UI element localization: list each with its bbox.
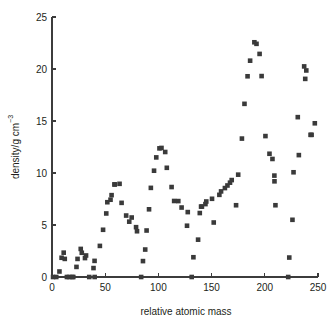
data-point — [295, 115, 300, 120]
x-tick-label: 150 — [203, 282, 220, 293]
y-axis-title-exponent: −3 — [6, 115, 13, 123]
data-point — [57, 269, 62, 274]
y-tick-label: 15 — [36, 116, 48, 127]
data-point — [229, 178, 234, 183]
data-point — [303, 77, 308, 82]
y-axis-title-text: density/g cm−3 — [6, 115, 21, 179]
y-axis-title-base: density/g cm — [10, 123, 21, 179]
data-point — [287, 255, 292, 260]
data-point — [272, 173, 277, 178]
data-point — [79, 250, 84, 255]
data-point — [189, 275, 194, 280]
data-point — [152, 168, 157, 173]
data-point — [139, 275, 144, 280]
data-point — [108, 197, 113, 202]
scatter-plot-svg: 0510152025 050100150200250 relative atom… — [0, 0, 334, 326]
data-point — [117, 182, 122, 187]
data-point — [84, 253, 89, 258]
x-tick-label: 0 — [49, 282, 55, 293]
x-tick-label: 250 — [310, 282, 327, 293]
data-point — [104, 211, 109, 216]
data-point — [304, 68, 309, 73]
data-point — [74, 265, 79, 270]
data-point — [129, 215, 134, 220]
data-point — [196, 237, 201, 242]
data-point — [75, 257, 80, 262]
data-point — [92, 259, 97, 264]
data-point — [71, 275, 76, 280]
density-vs-atomic-mass-chart: 0510152025 050100150200250 relative atom… — [0, 0, 334, 326]
data-point — [242, 102, 247, 107]
y-axis: 0510152025 — [36, 12, 56, 283]
data-point — [149, 186, 154, 191]
y-tick-label: 0 — [41, 272, 47, 283]
data-point — [154, 155, 159, 160]
data-point — [240, 136, 245, 141]
data-point — [172, 199, 177, 204]
y-tick-label: 20 — [36, 64, 48, 75]
data-point — [254, 42, 259, 47]
data-point — [141, 259, 146, 264]
data-point — [112, 182, 117, 187]
data-point — [54, 275, 59, 280]
x-axis-title: relative atomic mass — [140, 306, 231, 317]
data-point-group — [51, 40, 317, 279]
data-point — [267, 151, 272, 156]
data-point — [165, 166, 170, 171]
data-point — [286, 275, 291, 280]
data-point — [191, 255, 196, 260]
data-point — [176, 199, 181, 204]
data-point — [270, 157, 275, 162]
data-point — [185, 210, 190, 215]
x-tick-label: 200 — [256, 282, 273, 293]
y-tick-label: 10 — [36, 168, 48, 179]
data-point — [313, 121, 318, 126]
data-point — [62, 257, 67, 262]
data-point — [144, 228, 149, 233]
data-point — [302, 64, 307, 69]
data-point — [127, 219, 132, 224]
data-point — [98, 244, 103, 249]
data-point — [179, 205, 184, 210]
data-point — [257, 52, 262, 57]
data-point — [259, 74, 264, 79]
data-point — [92, 275, 97, 280]
data-point — [61, 250, 66, 255]
data-point — [147, 207, 152, 212]
data-point — [290, 218, 295, 223]
x-tick-label: 100 — [150, 282, 167, 293]
y-tick-group: 0510152025 — [36, 12, 56, 283]
data-point — [101, 227, 106, 232]
data-point — [185, 223, 190, 228]
y-axis-title: density/g cm−3 — [6, 115, 21, 179]
data-point — [248, 58, 253, 63]
data-point — [309, 133, 314, 138]
data-point — [273, 203, 278, 208]
data-point — [236, 172, 241, 177]
data-point — [169, 185, 174, 190]
data-point — [291, 170, 296, 175]
data-point — [135, 229, 140, 234]
data-point — [119, 201, 124, 206]
data-point — [143, 247, 148, 252]
x-tick-label: 50 — [100, 282, 112, 293]
data-point — [263, 134, 268, 139]
data-point — [234, 203, 239, 208]
data-point — [197, 211, 202, 216]
data-point — [297, 153, 302, 158]
data-point — [272, 179, 277, 184]
data-point — [204, 199, 209, 204]
data-point — [245, 74, 250, 79]
data-point — [91, 266, 96, 271]
y-tick-label: 25 — [36, 12, 48, 23]
data-point — [159, 146, 164, 151]
data-point — [134, 225, 139, 230]
data-point — [124, 213, 129, 218]
data-point — [210, 196, 215, 201]
data-point — [211, 220, 216, 225]
data-point — [163, 150, 168, 155]
y-tick-label: 5 — [41, 220, 47, 231]
data-point — [109, 193, 114, 198]
data-point — [87, 275, 92, 280]
